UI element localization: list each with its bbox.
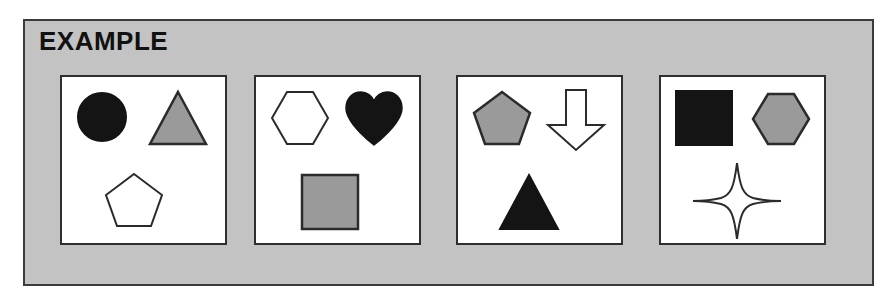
- shape-panel-4: [659, 75, 826, 245]
- shape-panel-2: [254, 75, 421, 245]
- screenshot-root: EXAMPLE: [0, 0, 892, 290]
- shape-panel-3: [456, 75, 623, 245]
- square-shape: [674, 89, 734, 147]
- heart-shape: [343, 89, 405, 147]
- hexagon-shape: [269, 89, 331, 147]
- triangle-shape: [497, 172, 561, 232]
- circle-shape: [76, 91, 128, 143]
- shape-panel-1: [60, 75, 227, 245]
- four-point-star-shape: [691, 161, 783, 241]
- pentagon-shape: [471, 89, 533, 147]
- example-frame: EXAMPLE: [23, 19, 874, 286]
- example-title: EXAMPLE: [39, 26, 168, 56]
- hexagon-shape: [750, 91, 812, 147]
- down-arrow-shape: [544, 87, 608, 153]
- pentagon-shape: [103, 171, 165, 229]
- square-shape: [300, 173, 360, 231]
- triangle-shape: [147, 89, 209, 147]
